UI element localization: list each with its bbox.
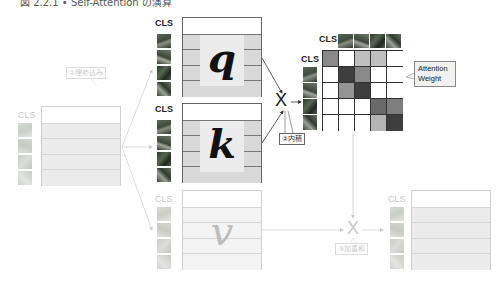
attention-cell-1-1 <box>339 67 355 83</box>
output-box <box>411 190 491 270</box>
matrix-left-patch-3 <box>303 99 317 114</box>
q-cls-label: CLS <box>155 18 173 28</box>
attention-cell-2-1 <box>339 83 355 99</box>
key-symbol: k <box>183 122 261 166</box>
output-patch-4 <box>390 255 404 269</box>
matrix-left-patch-1 <box>303 67 317 82</box>
q-patch-1 <box>157 34 171 48</box>
query-symbol: q <box>183 36 261 80</box>
attention-cell-3-0 <box>323 99 339 115</box>
arrow-input-to-q <box>122 70 152 147</box>
matrix-left-cls-label: CLS <box>301 54 319 64</box>
arrow-input-to-v <box>122 147 152 230</box>
value-box: v <box>182 190 262 270</box>
input-cls-label: CLS <box>18 110 36 120</box>
k-patch-3 <box>157 152 171 166</box>
q-patch-4 <box>157 82 171 96</box>
v-patch-1 <box>157 207 171 221</box>
attention-cell-1-4 <box>387 67 403 83</box>
step-weighted-sum-label: ③加重和 <box>335 243 368 255</box>
attention-cell-3-2 <box>355 99 371 115</box>
attention-weight-line-2: Weight <box>418 74 452 84</box>
matrix-top-patch-4 <box>386 34 401 48</box>
k-patch-1 <box>157 120 171 134</box>
attention-cell-1-2 <box>355 67 371 83</box>
attention-cell-0-4 <box>387 51 403 67</box>
attention-weight-callout: Attention Weight <box>414 61 456 87</box>
query-box: q <box>182 17 262 97</box>
attention-cell-3-4 <box>387 99 403 115</box>
matrix-top-patch-3 <box>370 34 385 48</box>
k-patch-2 <box>157 136 171 150</box>
matrix-top-cls-label: CLS <box>319 34 337 44</box>
attention-cell-3-1 <box>339 99 355 115</box>
attention-cell-4-0 <box>323 115 339 131</box>
output-patch-1 <box>390 207 404 221</box>
input-embedding-box <box>41 106 121 186</box>
k-cls-label: CLS <box>155 104 173 114</box>
attention-cell-0-0 <box>323 51 339 67</box>
step-dot-product-label: ②内積 <box>279 133 305 145</box>
output-patch-3 <box>390 239 404 253</box>
input-patch-2 <box>18 139 32 153</box>
output-cls-label: CLS <box>388 194 406 204</box>
input-patch-1 <box>18 123 32 137</box>
v-patch-3 <box>157 239 171 253</box>
v-patch-4 <box>157 255 171 269</box>
attention-cell-4-2 <box>355 115 371 131</box>
attention-cell-2-4 <box>387 83 403 99</box>
attention-cell-0-3 <box>371 51 387 67</box>
multiply-icon: X <box>275 90 287 111</box>
attention-matrix <box>322 50 403 131</box>
input-patch-4 <box>18 171 32 185</box>
attention-cell-2-2 <box>355 83 371 99</box>
step-embed-label: ①埋め込み <box>66 67 106 79</box>
matrix-left-patch-4 <box>303 115 317 130</box>
key-box: k <box>182 103 262 183</box>
attention-cell-4-4 <box>387 115 403 131</box>
attention-cell-2-3 <box>371 83 387 99</box>
value-symbol: v <box>183 209 261 253</box>
v-cls-label: CLS <box>155 194 173 204</box>
attention-cell-4-1 <box>339 115 355 131</box>
arrow-q-to-multiply <box>262 58 282 93</box>
attention-cell-0-2 <box>355 51 371 67</box>
matrix-top-patch-1 <box>338 34 353 48</box>
attention-cell-4-3 <box>371 115 387 131</box>
attention-cell-2-0 <box>323 83 339 99</box>
matrix-top-patch-2 <box>354 34 369 48</box>
q-patch-2 <box>157 50 171 64</box>
attention-weight-line-1: Attention <box>418 64 452 74</box>
q-patch-3 <box>157 66 171 80</box>
attention-cell-0-1 <box>339 51 355 67</box>
attention-cell-1-0 <box>323 67 339 83</box>
v-patch-2 <box>157 223 171 237</box>
matrix-left-patch-2 <box>303 83 317 98</box>
output-patch-2 <box>390 223 404 237</box>
weighted-sum-multiply-icon: X <box>347 218 359 239</box>
k-patch-4 <box>157 168 171 182</box>
attention-cell-3-3 <box>371 99 387 115</box>
attention-cell-1-3 <box>371 67 387 83</box>
input-patch-3 <box>18 155 32 169</box>
